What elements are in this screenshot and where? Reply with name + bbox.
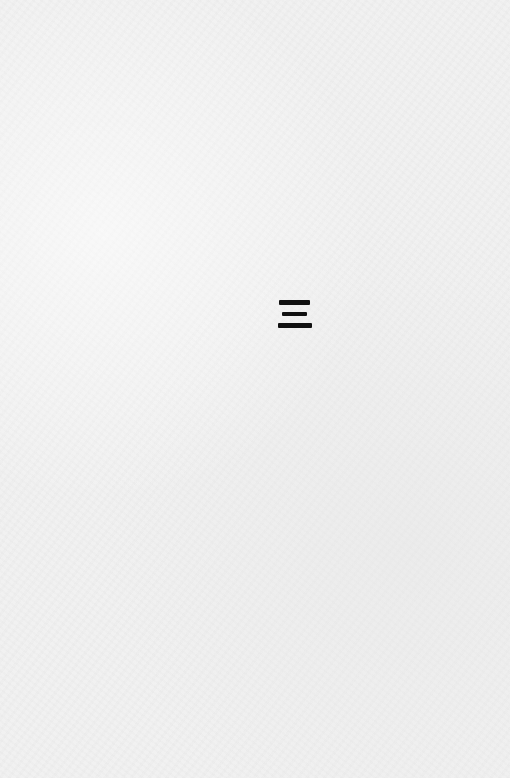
glyph-stroke-bottom: [278, 323, 312, 328]
character-glyph: 三: [278, 300, 312, 328]
glyph-stroke-top: [279, 300, 310, 305]
flashcard: 三: [0, 0, 510, 778]
glyph-stroke-middle: [282, 312, 307, 316]
